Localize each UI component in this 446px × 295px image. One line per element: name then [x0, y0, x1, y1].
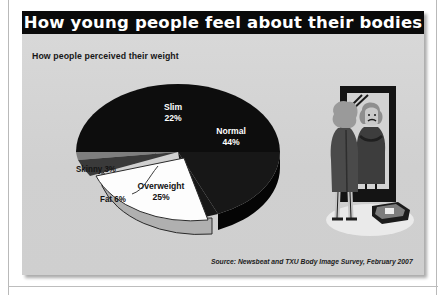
- pie-label-fat: Fat 6%: [100, 194, 126, 204]
- chart-subtitle: How people perceived their weight: [32, 50, 179, 61]
- pie-chart: Normal 44% Slim 22% Overweight 25% Skinn…: [68, 66, 288, 251]
- woman-coat: [331, 128, 358, 192]
- pie-label-skinny: Skinny 3%: [76, 164, 116, 174]
- pie-chart-svg: Normal 44% Slim 22% Overweight 25%: [68, 66, 288, 251]
- pie-label-slim-value: 22%: [164, 113, 182, 123]
- source-attribution: Source: Newsbeat and TXU Body Image Surv…: [211, 257, 413, 266]
- pie-label-overweight-value: 25%: [152, 192, 170, 202]
- illustration-woman-mirror: [322, 80, 418, 252]
- chart-body: How people perceived their weight: [22, 34, 424, 275]
- pie-label-normal-value: 44%: [222, 137, 240, 147]
- woman-coat-seam: [346, 130, 347, 192]
- pie-label-overweight-name: Overweight: [138, 181, 185, 191]
- reflection-face: [365, 108, 378, 126]
- woman-reflection: [357, 103, 385, 184]
- pie-label-slim-name: Slim: [164, 102, 183, 112]
- infographic-panel: How young people feel about their bodies…: [22, 11, 424, 275]
- page-title: How young people feel about their bodies: [24, 13, 423, 32]
- woman-hair: [333, 101, 358, 129]
- illustration-svg: [322, 80, 418, 252]
- scales-dial: [385, 208, 394, 214]
- title-bar: How young people feel about their bodies: [22, 11, 424, 34]
- page-border-bottom: [8, 286, 438, 287]
- pie-slice-slim: [76, 84, 178, 152]
- pie-label-normal-name: Normal: [216, 126, 246, 136]
